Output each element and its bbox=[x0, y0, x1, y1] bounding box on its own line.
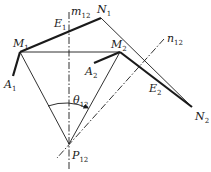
label-a2: A2 bbox=[84, 65, 97, 80]
label-m12: m12 bbox=[71, 5, 90, 20]
label-m1: M1 bbox=[12, 37, 29, 52]
label-n12: n12 bbox=[167, 32, 183, 47]
link-a1-m1 bbox=[13, 52, 20, 76]
ray-p12-m1 bbox=[20, 52, 69, 144]
label-n1: N1 bbox=[96, 3, 111, 18]
link-a2-m2 bbox=[94, 52, 120, 63]
label-a1: A1 bbox=[3, 78, 16, 93]
diagram-canvas: A1 M1 E1 m12 N1 M2 A2 n12 E2 N2 θ12 P12 bbox=[0, 0, 211, 172]
label-n2: N2 bbox=[194, 110, 209, 125]
label-p12: P12 bbox=[71, 149, 88, 164]
label-e1: E1 bbox=[53, 17, 67, 32]
label-theta12: θ12 bbox=[73, 94, 89, 109]
label-e2: E2 bbox=[148, 82, 162, 97]
link-m2-n2 bbox=[120, 52, 192, 107]
diagram-svg: A1 M1 E1 m12 N1 M2 A2 n12 E2 N2 θ12 P12 bbox=[0, 0, 211, 172]
